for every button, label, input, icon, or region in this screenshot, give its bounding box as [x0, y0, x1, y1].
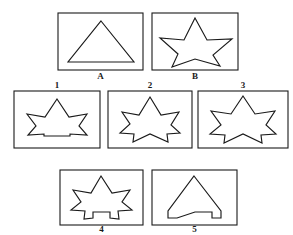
panel-b-label: B	[192, 71, 198, 81]
panel-option-3-label: 3	[241, 80, 246, 90]
panel-option-2-label: 2	[148, 80, 153, 90]
panel-option-1-label: 1	[55, 80, 60, 90]
panel-option-5[interactable]: 5	[152, 170, 237, 234]
analogy-figure-panel-set: A B 1 2 3 4	[0, 0, 293, 235]
panel-a-label: A	[97, 71, 104, 81]
panel-option-4[interactable]: 4	[60, 170, 143, 234]
panel-option-4-label: 4	[99, 224, 104, 234]
panel-option-5-label: 5	[192, 224, 197, 234]
